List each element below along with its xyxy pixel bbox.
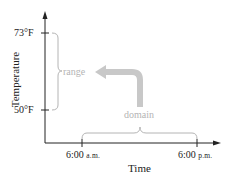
x-axis-title: Time — [128, 163, 151, 174]
x-axis-arrowhead-icon — [213, 141, 221, 146]
x-tick-suffix-am: a.m. — [86, 151, 100, 160]
x-tick-label-6pm: 6:00 p.m. — [178, 150, 212, 160]
x-tick-suffix-pm: p.m. — [198, 151, 212, 160]
domain-to-range-arrow-icon — [95, 65, 140, 107]
y-axis-title: Temperature — [10, 50, 21, 110]
domain-brace-icon — [82, 127, 197, 139]
x-tick-time-6am: 6:00 — [66, 149, 84, 160]
x-axis — [45, 139, 221, 147]
domain-label: domain — [124, 110, 154, 120]
range-brace-icon — [52, 33, 62, 110]
domain-range-diagram: Temperature 73°F 50°F 6:00 a.m. 6:00 p.m… — [0, 0, 230, 184]
y-tick-label-73: 73°F — [14, 28, 34, 38]
x-tick-time-6pm: 6:00 — [178, 149, 196, 160]
y-axis — [41, 11, 49, 143]
x-tick-label-6am: 6:00 a.m. — [66, 150, 100, 160]
range-label: range — [63, 67, 85, 77]
y-axis-arrowhead-icon — [43, 11, 48, 19]
y-tick-label-50: 50°F — [14, 105, 34, 115]
